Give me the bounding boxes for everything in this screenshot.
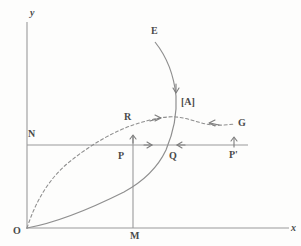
point-label-M: M (130, 231, 139, 241)
y-axis-label: y (30, 8, 34, 18)
dashed-curve-OG (27, 117, 235, 228)
horizontal-right-arrow-icon (144, 142, 152, 148)
point-label-R: R (124, 112, 131, 122)
solid-curve-OE (27, 42, 176, 228)
point-label-G: G (238, 118, 246, 128)
point-label-N: N (28, 129, 35, 139)
dashed-curve-right-arrow-icon (150, 115, 161, 121)
figure-diagram: y x O E G [A] R N P Q P' M (0, 0, 301, 246)
point-label-A: [A] (181, 97, 195, 107)
x-axis-label: x (291, 223, 296, 233)
horizontal-left-arrow-icon (177, 142, 185, 148)
origin-label: O (13, 226, 21, 236)
point-label-P: P (118, 151, 124, 161)
diagram-canvas (0, 0, 301, 246)
vertical-line-up-arrow-icon (130, 135, 136, 143)
point-label-P-prime: P' (229, 150, 238, 160)
point-label-Q: Q (169, 151, 177, 161)
point-label-E: E (151, 26, 158, 36)
